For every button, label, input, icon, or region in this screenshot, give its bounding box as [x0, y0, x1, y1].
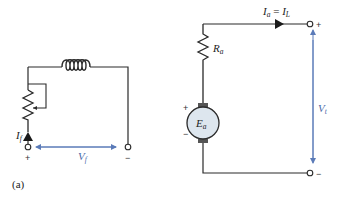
field-winding-inductor [62, 60, 90, 71]
armature-wire-bottom [203, 143, 307, 173]
armature-resistor-label: Ra [212, 42, 224, 56]
field-current-label: If [15, 129, 23, 143]
figure-caption: (a) [12, 178, 25, 191]
terminal-voltage-label: Vt [318, 102, 328, 116]
armature-terminal-plus-sign: + [316, 20, 321, 30]
machine-plus-sign: + [183, 103, 188, 113]
armature-current-label: Ia = IL [262, 5, 290, 19]
rheostat-wiper-arrow-icon [33, 106, 37, 110]
armature-circuit: + Ra Ea + − − Vt Ia = IL [183, 5, 328, 179]
field-wire-top-right [90, 67, 128, 144]
armature-resistor [198, 24, 208, 104]
field-plus-sign: + [25, 153, 30, 163]
field-minus-sign: − [125, 153, 130, 163]
field-current-arrow-icon [23, 132, 33, 141]
field-terminal-minus [125, 144, 131, 150]
field-voltage-label: Vf [78, 150, 88, 164]
armature-terminal-minus-sign: − [316, 169, 321, 179]
armature-terminal-plus [307, 21, 313, 27]
rheostat-resistor [23, 90, 33, 132]
armature-terminal-minus [307, 170, 313, 176]
armature-current-arrow-icon [275, 19, 284, 29]
field-circuit: If Vf + − (a) [12, 60, 131, 191]
circuit-diagram: If Vf + − (a) + Ra Ea + − − Vt Ia = IL [0, 0, 339, 201]
field-terminal-plus [25, 144, 31, 150]
machine-minus-sign: − [183, 129, 188, 139]
